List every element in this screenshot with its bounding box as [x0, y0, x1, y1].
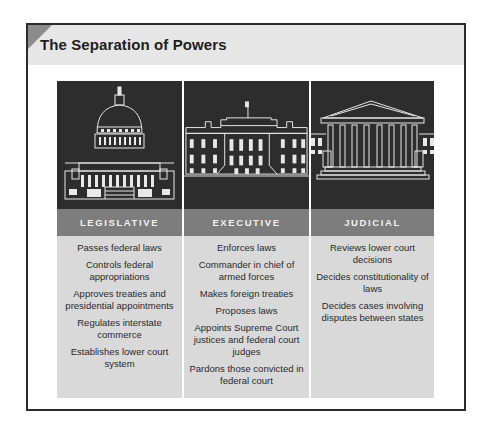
power-item: Appoints Supreme Court justices and fede… [188, 322, 305, 358]
branch-header-judicial: JUDICIAL [311, 209, 434, 236]
power-item: Controls federal appropriations [61, 259, 178, 283]
powers-list-legislative: Passes federal laws Controls federal app… [57, 236, 182, 398]
branch-legislative: LEGISLATIVE Passes federal laws Controls… [57, 81, 182, 398]
power-item: Reviews lower court decisions [315, 242, 430, 266]
power-item: Regulates interstate commerce [61, 317, 178, 341]
powers-list-judicial: Reviews lower court decisions Decides co… [311, 236, 434, 398]
power-item: Commander in chief of armed forces [188, 259, 305, 283]
branch-executive: EXECUTIVE Enforces laws Commander in chi… [182, 81, 311, 398]
power-item: Decides constitutionality of laws [315, 271, 430, 295]
power-item: Makes foreign treaties [188, 288, 305, 300]
capitol-building-icon [57, 81, 182, 209]
branch-header-legislative: LEGISLATIVE [57, 209, 182, 236]
power-item: Pardons those convicted in federal court [188, 363, 305, 387]
power-item: Decides cases involving disputes between… [315, 300, 430, 324]
supreme-court-icon [311, 81, 434, 209]
branches-table: LEGISLATIVE Passes federal laws Controls… [57, 81, 434, 398]
branch-header-executive: EXECUTIVE [184, 209, 309, 236]
branch-judicial: JUDICIAL Reviews lower court decisions D… [311, 81, 434, 398]
separation-of-powers-figure: The Separation of Powers [26, 23, 466, 411]
power-item: Establishes lower court system [61, 346, 178, 370]
powers-list-executive: Enforces laws Commander in chief of arme… [184, 236, 309, 398]
white-house-icon [184, 81, 309, 209]
figure-title: The Separation of Powers [40, 36, 227, 53]
power-item: Enforces laws [188, 242, 305, 254]
power-item: Approves treaties and presidential appoi… [61, 288, 178, 312]
title-band: The Separation of Powers [28, 25, 464, 65]
power-item: Passes federal laws [61, 242, 178, 254]
power-item: Proposes laws [188, 305, 305, 317]
